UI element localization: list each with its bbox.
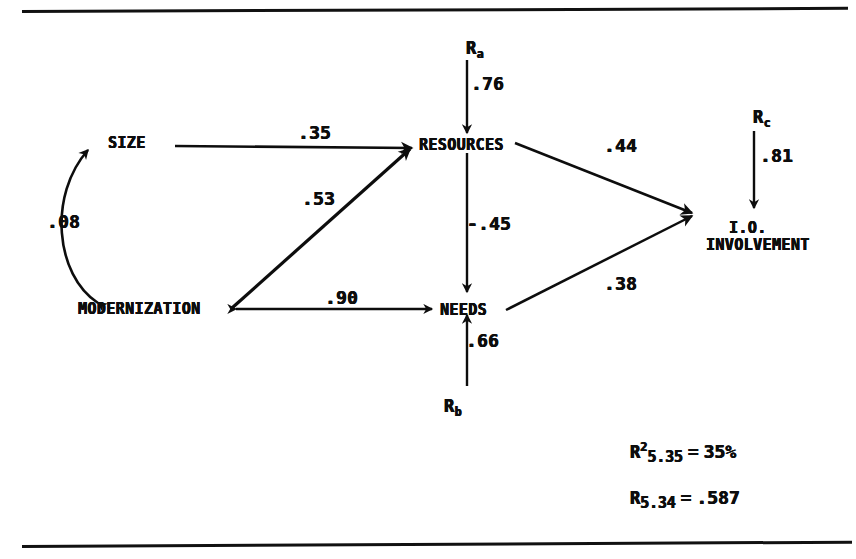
node-resources: RESOURCES — [419, 136, 504, 155]
residual-ra-symbol: R — [466, 38, 476, 58]
node-involvement-line1: I.O. — [729, 219, 767, 238]
node-needs: NEEDS — [440, 301, 487, 320]
residual-rb: Rb — [444, 396, 462, 419]
residual-rc-symbol: R — [753, 107, 763, 127]
statistic-r-squared-subscript: 5.35 — [647, 448, 682, 466]
statistic-multiple-r-symbol: R — [630, 488, 640, 508]
coefficient-rc-to-involvement: .81 — [760, 145, 793, 166]
node-modernization: MODERNIZATION — [78, 300, 201, 319]
arrow-needs-to-involvement — [506, 216, 692, 310]
node-size: SIZE — [108, 134, 146, 153]
residual-ra-subscript: a — [477, 47, 484, 61]
statistic-r-squared: R25.35=35% — [630, 440, 736, 466]
bottom-horizontal-rule — [22, 541, 852, 548]
top-horizontal-rule — [22, 7, 848, 13]
statistic-r-squared-symbol: R — [630, 442, 640, 462]
coefficient-resources-to-needs: -.45 — [467, 213, 511, 234]
coefficient-modernization-to-resources: .53 — [302, 188, 335, 209]
statistic-r-squared-equals: = — [688, 441, 699, 462]
statistic-multiple-r-value: .587 — [696, 487, 739, 508]
statistic-multiple-r: R5.34=.587 — [630, 487, 740, 512]
coefficient-ra-to-resources: .76 — [471, 73, 504, 94]
coefficient-size-modernization-correlation: .08 — [47, 211, 80, 232]
figure-canvas: SIZE MODERNIZATION RESOURCES NEEDS I.O. … — [0, 0, 856, 559]
coefficient-size-to-resources: .35 — [298, 122, 331, 143]
residual-rb-symbol: R — [444, 396, 454, 416]
path-arrows-layer — [0, 0, 856, 559]
coefficient-modernization-needs-correlation: .90 — [325, 287, 358, 308]
residual-rc-subscript: c — [764, 116, 771, 130]
arrow-size-to-resources — [175, 146, 412, 148]
statistic-multiple-r-equals: = — [681, 487, 692, 508]
statistic-multiple-r-subscript: 5.34 — [640, 494, 675, 512]
residual-rb-subscript: b — [455, 405, 462, 419]
coefficient-needs-to-involvement: .38 — [604, 273, 637, 294]
arrow-modernization-to-resources — [232, 149, 410, 308]
node-involvement-line2: INVOLVEMENT — [706, 236, 810, 255]
residual-ra: Ra — [466, 38, 484, 61]
coefficient-resources-to-involvement: .44 — [604, 135, 637, 156]
statistic-r-squared-value: 35% — [704, 441, 737, 462]
coefficient-rb-to-needs: .66 — [466, 330, 499, 351]
residual-rc: Rc — [753, 107, 771, 130]
